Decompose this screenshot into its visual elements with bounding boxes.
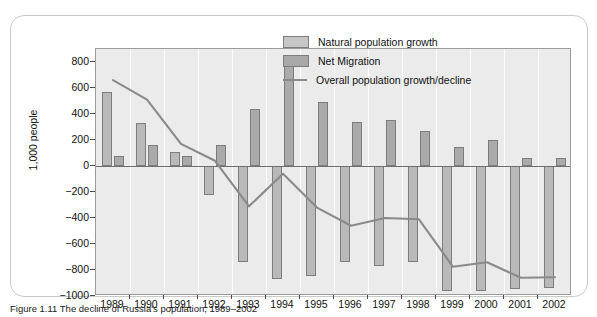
y-axis-tick-label: 800 (71, 56, 89, 66)
y-axis-title: 1,000 people (27, 85, 39, 195)
y-axis-tick-label: −600 (65, 238, 89, 248)
y-axis-tick-label: −800 (65, 264, 89, 274)
y-axis-tick-label: 600 (71, 82, 89, 92)
legend-swatch-icon (283, 55, 309, 67)
y-axis-tick-label: −400 (65, 212, 89, 222)
legend-swatch-icon (283, 36, 309, 48)
y-axis-tick-label: 200 (71, 134, 89, 144)
figure-caption: Figure 1.11 The decline of Russia's popu… (10, 303, 570, 317)
y-axis-tick-labels: 8006004002000−200−400−600−800−1000 (51, 48, 89, 295)
y-axis-tick-label: 400 (71, 108, 89, 118)
legend-item-overall-population-growth-decline: Overall population growth/decline (283, 70, 483, 89)
legend-item-label: Overall population growth/decline (316, 74, 471, 86)
legend-item-label: Natural population growth (318, 36, 438, 48)
legend-item-natural-population-growth: Natural population growth (283, 32, 483, 51)
legend-line-icon (283, 79, 307, 81)
y-axis-tick-label: 0 (83, 160, 89, 170)
legend-item-net-migration: Net Migration (283, 51, 483, 70)
y-axis-tick-label: −1000 (60, 290, 90, 300)
y-axis-tick-label: −200 (65, 186, 89, 196)
chart-legend: Natural population growth Net Migration … (277, 28, 489, 94)
figure-card: 1,000 people 8006004002000−200−400−600−8… (10, 15, 588, 297)
legend-item-label: Net Migration (318, 55, 380, 67)
